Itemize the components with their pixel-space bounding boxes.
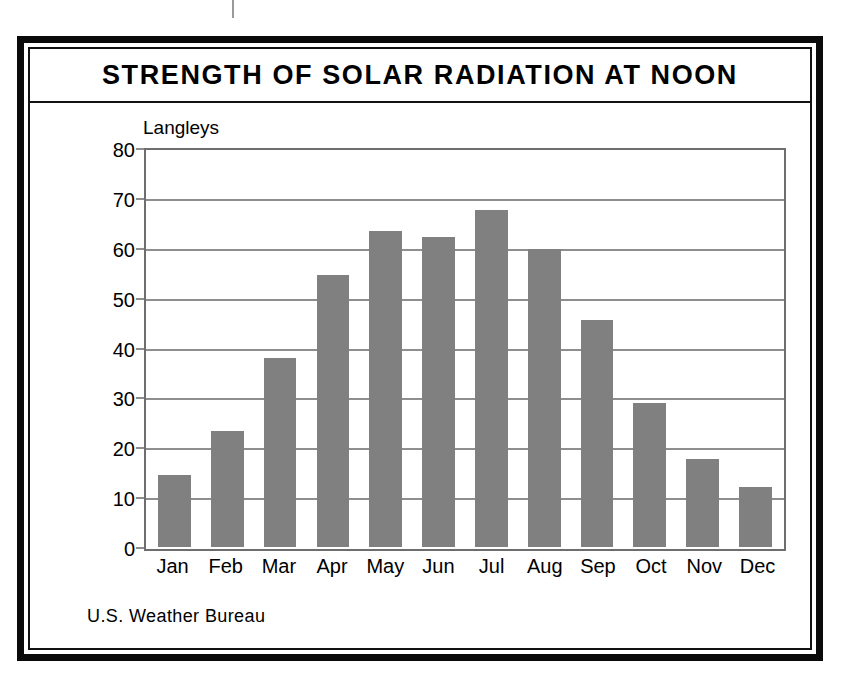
bar-apr xyxy=(317,275,350,547)
bar-aug xyxy=(528,249,561,547)
bar-slot xyxy=(465,152,518,547)
bar-slot xyxy=(571,152,624,547)
y-axis-tick xyxy=(136,397,144,399)
bar-jun xyxy=(422,237,455,547)
bar-slot xyxy=(623,152,676,547)
source-note: U.S. Weather Bureau xyxy=(87,606,265,627)
y-axis-tick-label: 80 xyxy=(113,139,135,162)
bar-nov xyxy=(686,459,719,547)
bar-jan xyxy=(158,475,191,547)
y-axis-tick-label: 40 xyxy=(113,338,135,361)
x-axis-label-nov: Nov xyxy=(678,555,731,578)
y-axis-tick xyxy=(136,497,144,499)
bar-slot xyxy=(412,152,465,547)
x-axis-label-oct: Oct xyxy=(625,555,678,578)
y-axis-tick-label: 70 xyxy=(113,188,135,211)
plot-area: 80706050403020100 xyxy=(144,148,786,551)
bar-series xyxy=(148,152,782,547)
x-axis-label-jun: Jun xyxy=(412,555,465,578)
bar-slot xyxy=(729,152,782,547)
x-axis-label-aug: Aug xyxy=(518,555,571,578)
bar-may xyxy=(369,231,402,547)
top-edge-tick-mark xyxy=(232,0,234,18)
chart-inner-frame: STRENGTH OF SOLAR RADIATION AT NOON Lang… xyxy=(28,47,812,650)
y-axis-tick-label: 10 xyxy=(113,488,135,511)
y-axis-tick xyxy=(136,447,144,449)
x-axis-label-apr: Apr xyxy=(306,555,359,578)
bar-slot xyxy=(306,152,359,547)
y-axis-tick xyxy=(136,248,144,250)
x-axis-label-jan: Jan xyxy=(146,555,199,578)
gridline xyxy=(146,548,784,550)
y-axis-tick-label: 20 xyxy=(113,438,135,461)
title-band: STRENGTH OF SOLAR RADIATION AT NOON xyxy=(30,49,810,103)
y-axis-tick-label: 0 xyxy=(124,538,135,561)
chart-body: Langleys 80706050403020100 JanFebMarAprM… xyxy=(30,103,810,648)
y-axis-tick xyxy=(136,298,144,300)
x-axis-label-group: JanFebMarAprMayJunJulAugSepOctNovDec xyxy=(146,555,784,578)
y-axis-tick xyxy=(136,547,144,549)
x-axis-label-feb: Feb xyxy=(199,555,252,578)
x-axis-label-mar: Mar xyxy=(252,555,305,578)
x-axis-label-may: May xyxy=(359,555,412,578)
bar-dec xyxy=(739,487,772,547)
y-axis-tick xyxy=(136,198,144,200)
x-axis-label-dec: Dec xyxy=(731,555,784,578)
chart-outer-frame: STRENGTH OF SOLAR RADIATION AT NOON Lang… xyxy=(17,36,823,661)
bar-oct xyxy=(633,403,666,547)
bar-slot xyxy=(254,152,307,547)
y-axis-tick xyxy=(136,348,144,350)
bar-sep xyxy=(581,320,614,547)
y-axis-unit-label: Langleys xyxy=(143,117,219,139)
bar-slot xyxy=(518,152,571,547)
y-axis-tick-label: 50 xyxy=(113,288,135,311)
y-axis-tick-label: 30 xyxy=(113,388,135,411)
x-axis-label-jul: Jul xyxy=(465,555,518,578)
bar-slot xyxy=(201,152,254,547)
bar-jul xyxy=(475,210,508,547)
y-axis-tick-label: 60 xyxy=(113,238,135,261)
bar-slot xyxy=(148,152,201,547)
page-title: STRENGTH OF SOLAR RADIATION AT NOON xyxy=(102,60,738,91)
x-axis-label-sep: Sep xyxy=(571,555,624,578)
y-axis-tick xyxy=(136,148,144,150)
bar-mar xyxy=(264,358,297,547)
bar-feb xyxy=(211,431,244,547)
bar-slot xyxy=(359,152,412,547)
bar-slot xyxy=(676,152,729,547)
gridline xyxy=(146,149,784,151)
